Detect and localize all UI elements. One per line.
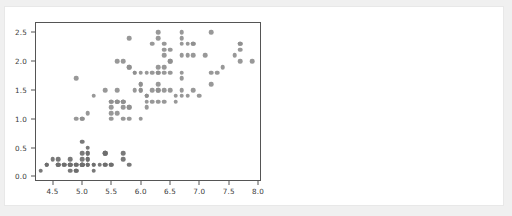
data-point	[86, 111, 91, 116]
data-point	[185, 93, 190, 98]
data-point	[74, 116, 79, 121]
data-point	[138, 88, 143, 93]
data-point	[209, 30, 214, 35]
y-tick-mark	[31, 32, 35, 33]
data-point	[174, 99, 179, 104]
data-point	[80, 157, 85, 162]
data-point	[162, 42, 167, 47]
x-tick-label: 6.0	[135, 187, 147, 196]
data-point	[238, 47, 243, 52]
x-tick-mark	[199, 181, 200, 185]
data-point	[127, 163, 132, 168]
data-point	[109, 111, 114, 116]
data-point	[197, 93, 202, 98]
data-point	[156, 99, 161, 104]
x-tick-mark	[52, 181, 53, 185]
data-point	[86, 163, 91, 168]
data-point	[103, 163, 108, 168]
data-point	[215, 70, 220, 75]
data-point	[174, 93, 179, 98]
data-point	[150, 42, 155, 47]
data-point	[97, 163, 102, 168]
y-tick-label: 2.5	[15, 28, 27, 37]
y-tick-mark	[31, 147, 35, 148]
data-point	[144, 93, 149, 98]
data-point	[179, 30, 184, 35]
data-point	[162, 88, 167, 93]
data-point	[103, 88, 108, 93]
data-point	[144, 99, 149, 104]
data-point	[179, 93, 184, 98]
y-tick-label: 0.5	[15, 143, 27, 152]
data-point	[50, 157, 55, 162]
data-point	[150, 88, 155, 93]
data-point	[127, 105, 132, 110]
data-point	[209, 70, 214, 75]
data-point	[162, 99, 167, 104]
x-tick-mark	[111, 181, 112, 185]
data-point	[91, 93, 96, 98]
data-point	[80, 116, 85, 121]
data-point	[80, 140, 85, 145]
data-point	[209, 82, 214, 87]
data-point	[56, 157, 61, 162]
data-point	[179, 88, 184, 93]
data-point	[121, 59, 126, 64]
y-tick-mark	[31, 89, 35, 90]
data-point	[162, 70, 167, 75]
data-point	[115, 99, 120, 104]
data-point	[150, 99, 155, 104]
data-point	[238, 59, 243, 64]
chart-card: 0.00.51.01.52.02.5 4.55.05.56.06.57.07.5…	[4, 6, 504, 206]
data-point	[109, 99, 114, 104]
data-point	[86, 157, 91, 162]
data-point	[68, 157, 73, 162]
data-point	[62, 163, 67, 168]
data-point	[121, 116, 126, 121]
data-point	[44, 163, 49, 168]
data-point	[80, 151, 85, 156]
y-tick-mark	[31, 176, 35, 177]
data-point	[56, 163, 61, 168]
data-point	[156, 65, 161, 70]
data-point	[121, 99, 126, 104]
data-point	[162, 65, 167, 70]
data-point	[132, 70, 137, 75]
data-point	[168, 47, 173, 52]
data-point	[156, 30, 161, 35]
data-point	[39, 168, 44, 173]
data-point	[138, 82, 143, 87]
data-point	[74, 76, 79, 81]
data-point	[121, 151, 126, 156]
x-tick-mark	[170, 181, 171, 185]
x-tick-mark	[140, 181, 141, 185]
data-point	[162, 53, 167, 58]
x-tick-label: 7.0	[193, 187, 205, 196]
data-point	[138, 116, 143, 121]
data-point	[191, 53, 196, 58]
data-point	[121, 105, 126, 110]
data-point	[221, 65, 226, 70]
data-point	[179, 36, 184, 41]
data-point	[156, 70, 161, 75]
x-tick-label: 6.5	[164, 187, 176, 196]
data-point	[127, 36, 132, 41]
x-tick-mark	[258, 181, 259, 185]
data-point	[191, 42, 196, 47]
x-tick-label: 5.0	[76, 187, 88, 196]
data-point	[168, 70, 173, 75]
data-point	[115, 111, 120, 116]
data-point	[168, 88, 173, 93]
data-point	[109, 163, 114, 168]
data-point	[109, 105, 114, 110]
x-tick-label: 4.5	[47, 187, 59, 196]
data-point	[74, 163, 79, 168]
data-point	[185, 42, 190, 47]
data-point	[91, 168, 96, 173]
data-point	[115, 88, 120, 93]
data-point	[68, 163, 73, 168]
scatter-figure: 0.00.51.01.52.02.5 4.55.05.56.06.57.07.5…	[5, 7, 285, 207]
data-point	[144, 105, 149, 110]
data-point	[138, 70, 143, 75]
data-point	[144, 70, 149, 75]
